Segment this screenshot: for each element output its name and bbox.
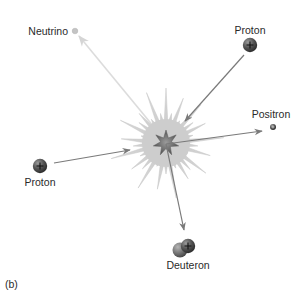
neutrino-arrow bbox=[79, 36, 163, 138]
proton-top-label: Proton bbox=[235, 24, 266, 36]
positron-label: Positron bbox=[252, 108, 291, 120]
proton-left-particle-icon bbox=[33, 159, 47, 173]
positron-particle-icon bbox=[270, 124, 276, 130]
neutrino-label: Neutrino bbox=[28, 25, 68, 37]
proton-top-particle-icon bbox=[243, 38, 257, 52]
neutrino-particle-icon bbox=[72, 28, 78, 34]
deuteron-label: Deuteron bbox=[166, 259, 209, 271]
diagram-canvas bbox=[0, 0, 308, 298]
fusion-diagram: Neutrino Proton Positron Proton Deuteron… bbox=[0, 0, 308, 298]
proton-left-label: Proton bbox=[25, 176, 56, 188]
deuteron-particle-icon bbox=[173, 239, 196, 258]
proton-top-arrow bbox=[185, 55, 244, 121]
panel-label: (b) bbox=[5, 278, 18, 290]
